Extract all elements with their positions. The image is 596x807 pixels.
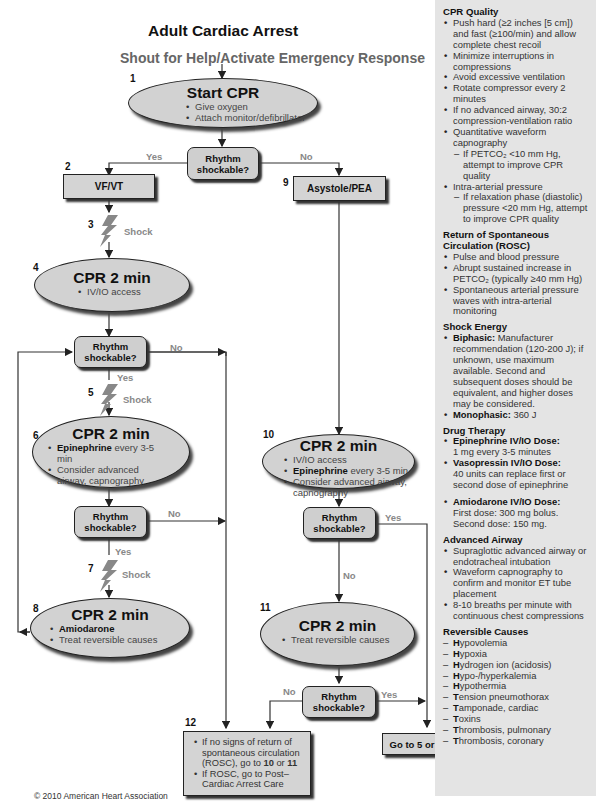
- list-item: Supraglottic advanced airway or endotrac…: [453, 546, 590, 568]
- step-8-title: CPR 2 min: [31, 606, 189, 623]
- step-2-vf-vt: VF/VT: [63, 174, 155, 199]
- list-item: If no advanced airway, 30:2 compression-…: [453, 105, 590, 127]
- step-11-item: Treat reversible causes: [291, 634, 414, 645]
- list-item: Monophasic: 360 J: [453, 410, 590, 421]
- step-6-cpr: CPR 2 min Epinephrine every 3-5 min Cons…: [32, 416, 190, 488]
- lightning-bolt-icon: [98, 215, 120, 247]
- step-10-title: CPR 2 min: [263, 437, 414, 454]
- section-advanced-airway: Advanced Airway Supraglottic advanced ai…: [443, 535, 590, 622]
- step-number-1: 1: [130, 73, 136, 84]
- step-8-cpr: CPR 2 min Amiodarone Treat reversible ca…: [30, 598, 190, 658]
- step-6-title: CPR 2 min: [33, 425, 189, 442]
- list-item: Amiodarone IV/IO Dose:First dose: 300 mg…: [453, 497, 590, 530]
- decision-5-yes-label: Yes: [381, 689, 397, 700]
- decision-2-yes-label: Yes: [117, 372, 133, 383]
- section-cpr-quality: CPR Quality Push hard (≥2 inches [5 cm])…: [443, 7, 590, 225]
- step-10-item: Consider advanced airway, capnography: [293, 476, 413, 498]
- step-6-item: Epinephrine every 3-5 min: [57, 442, 167, 464]
- list-item: Quantitative waveform capnography If PET…: [453, 127, 590, 182]
- step-1-item: Give oxygen: [195, 101, 317, 112]
- step-4-title: CPR 2 min: [35, 269, 189, 286]
- step-12-item: If no signs of return of spontaneous cir…: [202, 737, 306, 769]
- page-subtitle: Shout for Help/Activate Emergency Respon…: [120, 50, 425, 66]
- decision-3-no-label: No: [168, 508, 181, 519]
- step-number-5: 5: [88, 387, 94, 398]
- step-number-3: 3: [88, 219, 94, 230]
- decision-4-no-label: No: [343, 570, 356, 581]
- list-item: Intra-arterial pressure If relaxation ph…: [453, 182, 590, 226]
- step-10-cpr: CPR 2 min IV/IO access Epinephrine every…: [262, 434, 415, 489]
- decision-1-no-label: No: [300, 151, 313, 162]
- step-4-cpr: CPR 2 min IV/IO access: [34, 258, 190, 312]
- shock-label: Shock: [123, 394, 152, 405]
- section-reversible-causes: Reversible Causes Hypovolemia Hypoxia Hy…: [443, 627, 590, 747]
- decision-1-yes-label: Yes: [146, 151, 162, 162]
- list-item: Push hard (≥2 inches [5 cm]) and fast (≥…: [453, 18, 590, 51]
- decision-5-no-label: No: [283, 686, 296, 697]
- sub-item: If relaxation phase (diastolic) pressure…: [463, 192, 590, 225]
- sub-item: If PETCO₂ <10 mm Hg, attempt to improve …: [463, 149, 590, 182]
- list-item: Vasopressin IV/IO Dose:40 units can repl…: [453, 458, 590, 491]
- decision-3-yes-label: Yes: [115, 546, 131, 557]
- step-number-2: 2: [65, 161, 71, 172]
- step-4-item: IV/IO access: [87, 286, 189, 297]
- list-item: Biphasic: Manufacturer recommendation (1…: [453, 333, 590, 409]
- section-title: Advanced Airway: [443, 535, 590, 546]
- lightning-bolt-icon: [98, 384, 120, 416]
- list-item: Thrombosis, coronary: [453, 736, 590, 747]
- step-number-7: 7: [88, 563, 94, 574]
- list-item: Minimize interruptions in compressions: [453, 51, 590, 73]
- reference-sidebar: CPR Quality Push hard (≥2 inches [5 cm])…: [435, 0, 596, 796]
- step-12-item: If ROSC, go to Post–Cardiac Arrest Care: [202, 769, 306, 790]
- decision-4-yes-label: Yes: [385, 512, 401, 523]
- decision-2-no-label: No: [170, 342, 183, 353]
- step-8-item: Treat reversible causes: [59, 634, 189, 645]
- decision-2-rhythm-shockable: Rhythm shockable?: [74, 336, 147, 368]
- step-12-rosc-box: If no signs of return of spontaneous cir…: [183, 731, 311, 796]
- step-number-11: 11: [260, 602, 271, 613]
- step-number-12: 12: [185, 717, 196, 728]
- shock-label: Shock: [124, 226, 153, 237]
- step-number-9: 9: [283, 177, 289, 188]
- decision-1-rhythm-shockable: Rhythm shockable?: [187, 147, 259, 180]
- step-10-item: IV/IO access: [293, 454, 413, 465]
- list-item: 8-10 breaths per minute with continuous …: [453, 600, 590, 622]
- step-1-start-cpr: Start CPR Give oxygen Attach monitor/def…: [128, 78, 318, 128]
- decision-3-rhythm-shockable: Rhythm shockable?: [74, 506, 147, 538]
- section-shock-energy: Shock Energy Biphasic: Manufacturer reco…: [443, 322, 590, 420]
- step-11-cpr: CPR 2 min Treat reversible causes: [260, 602, 415, 666]
- step-10-item: Epinephrine every 3-5 min: [293, 465, 413, 476]
- list-item: Spontaneous arterial pressure waves with…: [453, 285, 590, 318]
- section-rosc: Return of Spontaneous Circulation (ROSC)…: [443, 230, 590, 317]
- copyright: © 2010 American Heart Association: [34, 791, 168, 801]
- list-item: Epinephrine IV/IO Dose:1 mg every 3-5 mi…: [453, 436, 590, 458]
- section-title: Return of Spontaneous Circulation (ROSC): [443, 230, 590, 252]
- step-11-title: CPR 2 min: [261, 617, 414, 634]
- step-8-item: Amiodarone: [59, 623, 189, 634]
- list-item: Waveform capnography to confirm and moni…: [453, 567, 590, 600]
- list-item: Abrupt sustained increase in PETCO₂ (typ…: [453, 263, 590, 285]
- decision-4-rhythm-shockable: Rhythm shockable?: [303, 507, 376, 539]
- step-6-item: Consider advanced airway, capnography: [57, 464, 167, 486]
- page-title: Adult Cardiac Arrest: [148, 22, 298, 40]
- shock-label: Shock: [122, 569, 151, 580]
- lightning-bolt-icon: [98, 560, 120, 592]
- step-1-item: Attach monitor/defibrillator: [195, 112, 317, 123]
- step-9-asystole-pea: Asystole/PEA: [293, 176, 386, 201]
- step-1-title: Start CPR: [129, 84, 317, 101]
- list-item: Rotate compressor every 2 minutes: [453, 83, 590, 105]
- section-drug-therapy: Drug Therapy Epinephrine IV/IO Dose:1 mg…: [443, 426, 590, 530]
- decision-5-rhythm-shockable: Rhythm shockable?: [302, 686, 376, 718]
